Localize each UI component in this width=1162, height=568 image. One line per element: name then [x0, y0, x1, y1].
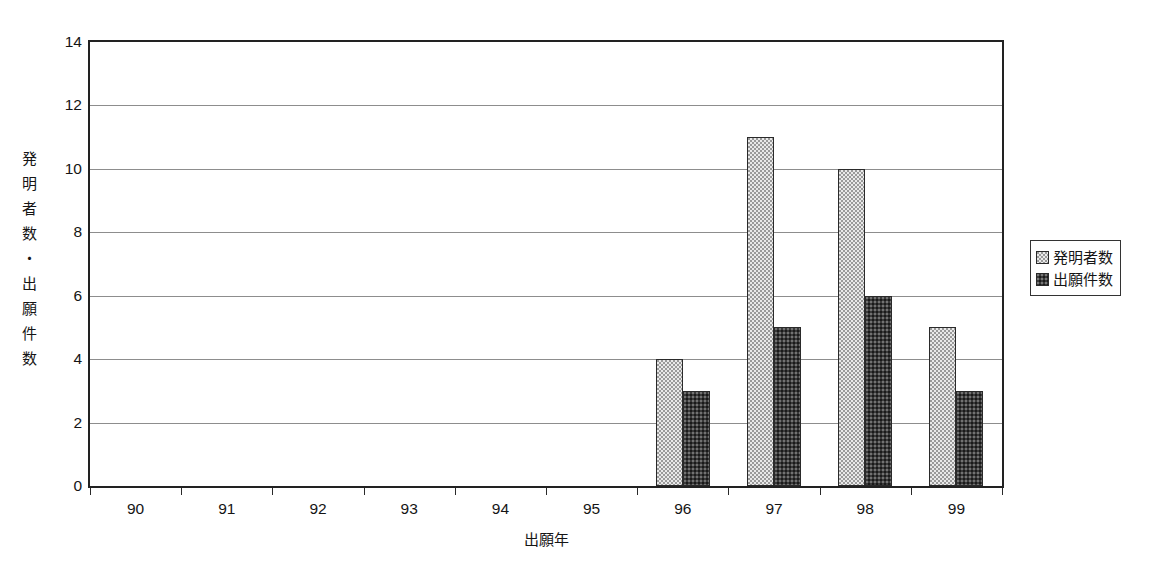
x-axis-tick [455, 488, 456, 495]
y-axis-title-char: 件 [16, 321, 42, 346]
legend-item-label: 発明者数 [1053, 250, 1113, 265]
x-axis-tick-label: 97 [744, 500, 804, 518]
y-axis-tick-label: 6 [48, 288, 82, 304]
y-axis-tick-label: 4 [48, 351, 82, 367]
legend: 発明者数出願件数 [1030, 240, 1121, 296]
bar [956, 391, 983, 486]
x-axis-tick [546, 488, 547, 495]
legend-item: 発明者数 [1036, 246, 1113, 268]
y-axis-tick-label: 14 [48, 34, 82, 50]
bar-group [455, 42, 546, 486]
plot-area [88, 40, 1004, 488]
y-axis-tick-label: 8 [48, 224, 82, 240]
y-axis-title-char: 明 [16, 171, 42, 196]
y-axis-title-char: 数 [16, 346, 42, 371]
x-axis-tick [911, 488, 912, 495]
bar-group [181, 42, 272, 486]
x-axis-tick [820, 488, 821, 495]
bar [838, 169, 865, 486]
y-axis-title-char: 者 [16, 196, 42, 221]
y-axis-tick-label: 0 [48, 478, 82, 494]
bar-group [637, 42, 728, 486]
y-axis-title: 発明者数・出願件数 [16, 146, 42, 371]
bar [656, 359, 683, 486]
bar [865, 296, 892, 486]
x-axis-tick [364, 488, 365, 495]
y-axis-tick-label: 2 [48, 415, 82, 431]
bar-group [364, 42, 455, 486]
y-axis-tick-label: 12 [48, 97, 82, 113]
y-axis-title-char: ・ [16, 246, 42, 271]
bar [747, 137, 774, 486]
x-axis-tick [728, 488, 729, 495]
bar-group [820, 42, 911, 486]
plot-inner [90, 42, 1002, 486]
x-axis-tick-label: 96 [653, 500, 713, 518]
x-axis-tick-label: 98 [835, 500, 895, 518]
y-axis-title-char: 願 [16, 296, 42, 321]
y-axis-tick-labels: 02468101214 [44, 0, 82, 568]
bar-group [728, 42, 819, 486]
bar-group [546, 42, 637, 486]
x-axis-title: 出願年 [0, 530, 1092, 550]
bar-chart: 発明者数・出願件数 02468101214 909192939495969798… [0, 0, 1162, 568]
bar [929, 327, 956, 486]
bar [683, 391, 710, 486]
x-axis-tick [181, 488, 182, 495]
x-axis-tick-label: 93 [379, 500, 439, 518]
x-axis-tick [1002, 488, 1003, 495]
x-axis-tick [272, 488, 273, 495]
x-axis-tick [90, 488, 91, 495]
legend-item-label: 出願件数 [1053, 272, 1113, 287]
bar [774, 327, 801, 486]
x-axis-tick-label: 99 [926, 500, 986, 518]
x-axis-tick-label: 95 [562, 500, 622, 518]
x-axis-tick-label: 91 [197, 500, 257, 518]
y-axis-title-char: 出 [16, 271, 42, 296]
x-axis-tick [637, 488, 638, 495]
bar-group [272, 42, 363, 486]
y-axis-title-char: 発 [16, 146, 42, 171]
legend-item: 出願件数 [1036, 268, 1113, 290]
y-axis-tick-label: 10 [48, 161, 82, 177]
y-axis-title-char: 数 [16, 221, 42, 246]
x-axis-tick-label: 92 [288, 500, 348, 518]
x-axis-tick-label: 90 [106, 500, 166, 518]
legend-swatch-icon [1036, 251, 1049, 264]
legend-swatch-icon [1036, 273, 1049, 286]
x-axis-tick-label: 94 [470, 500, 530, 518]
bar-group [90, 42, 181, 486]
bar-group [911, 42, 1002, 486]
